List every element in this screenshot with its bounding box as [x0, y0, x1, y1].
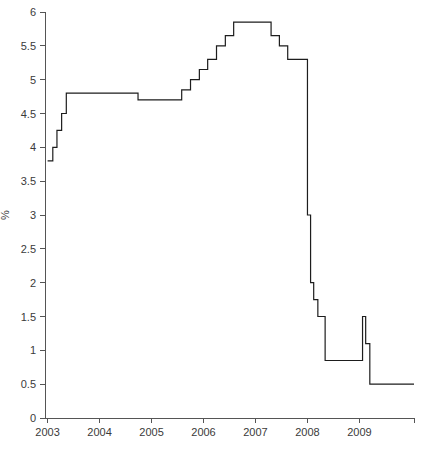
- y-tick-label: 3: [30, 209, 36, 221]
- step-line-chart: 00.511.522.533.544.555.56 20032004200520…: [0, 0, 422, 452]
- y-tick-label: 2: [30, 277, 36, 289]
- x-axis-ticks: 2003200420052006200720082009: [35, 418, 414, 438]
- y-tick-label: 6: [30, 6, 36, 18]
- y-axis-ticks: 00.511.522.533.544.555.56: [21, 6, 45, 424]
- y-tick-label: 5: [30, 74, 36, 86]
- y-axis-title: %: [0, 210, 11, 220]
- x-tick-label: 2008: [295, 426, 319, 438]
- x-tick-label: 2006: [191, 426, 215, 438]
- y-tick-label: 0: [30, 412, 36, 424]
- x-tick-label: 2003: [35, 426, 59, 438]
- x-tick-label: 2004: [87, 426, 111, 438]
- y-tick-label: 4: [30, 141, 36, 153]
- y-tick-label: 3.5: [21, 175, 36, 187]
- chart-container: 00.511.522.533.544.555.56 20032004200520…: [0, 0, 422, 452]
- y-tick-label: 1.5: [21, 311, 36, 323]
- x-tick-label: 2007: [243, 426, 267, 438]
- y-tick-label: 2.5: [21, 243, 36, 255]
- y-tick-label: 1: [30, 344, 36, 356]
- x-tick-label: 2009: [347, 426, 371, 438]
- y-tick-label: 0.5: [21, 378, 36, 390]
- y-tick-label: 5.5: [21, 40, 36, 52]
- x-tick-label: 2005: [139, 426, 163, 438]
- y-tick-label: 4.5: [21, 108, 36, 120]
- policy-rate-step-line: [48, 22, 414, 384]
